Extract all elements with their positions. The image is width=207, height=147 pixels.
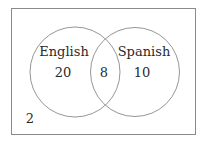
set-label-spanish: Spanish bbox=[118, 44, 171, 59]
outside-count: 2 bbox=[26, 111, 34, 126]
intersection-count: 8 bbox=[100, 65, 108, 80]
english-only-count: 20 bbox=[55, 65, 72, 80]
spanish-only-count: 10 bbox=[134, 65, 151, 80]
venn-diagram: English Spanish 20 8 10 2 bbox=[0, 0, 207, 147]
set-label-english: English bbox=[39, 44, 89, 59]
